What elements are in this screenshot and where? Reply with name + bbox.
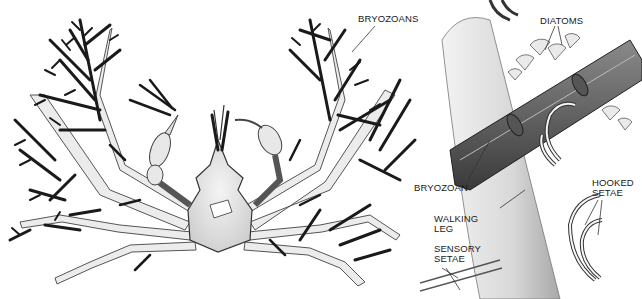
label-hooked-setae: HOOKED SETAE <box>592 178 634 198</box>
label-diatoms: DIATOMS <box>540 16 583 26</box>
hooked-setae <box>570 195 602 280</box>
crab-illustration <box>0 0 420 299</box>
leg-closeup-panel: DIATOMS BRYOZOAN WALKING LEG HOOKED SETA… <box>420 0 642 299</box>
label-bryozoans: BRYOZOANS <box>358 14 418 24</box>
left-legs <box>20 28 197 284</box>
label-bryozoan: BRYOZOAN <box>414 183 468 193</box>
right-legs <box>243 28 400 286</box>
label-sensory-setae: SENSORY SETAE <box>434 244 481 264</box>
crab-illustration-panel: BRYOZOANS <box>0 0 420 299</box>
bryozoans-leader-line <box>352 26 375 52</box>
crab-carapace <box>188 105 252 252</box>
label-walking-leg: WALKING LEG <box>434 214 478 234</box>
